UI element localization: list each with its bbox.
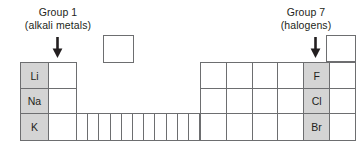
element-cell-empty (88, 114, 99, 141)
table-row: Br (201, 114, 356, 141)
element-cell-empty (144, 114, 155, 141)
element-cell-empty (133, 114, 144, 141)
table-row: K (21, 114, 77, 141)
element-cell-empty (227, 63, 253, 89)
element-cell-empty (253, 114, 279, 141)
transition-metals-grid (76, 113, 200, 141)
element-cell-empty (227, 89, 253, 114)
down-arrow-icon (310, 37, 321, 58)
element-cell-empty (49, 89, 77, 114)
element-cell-empty (227, 114, 253, 141)
element-cell-empty (49, 114, 77, 141)
element-cell-empty (111, 114, 122, 141)
element-cell-li: Li (21, 63, 49, 89)
s-block-grid: LiNaK (20, 62, 77, 141)
table-row: Na (21, 89, 77, 114)
hydrogen-cell (103, 35, 134, 63)
table-row (77, 114, 200, 141)
element-cell-empty (330, 114, 356, 141)
table-row: Cl (201, 89, 356, 114)
group-1-label-line1: Group 1 (10, 6, 106, 19)
element-cell-cl: Cl (304, 89, 330, 114)
element-cell-empty (278, 63, 304, 89)
periodic-table-diagram: Group 1 (alkali metals) Group 7 (halogen… (0, 0, 357, 143)
group-7-label-line1: Group 7 (258, 6, 354, 19)
group-1-label: Group 1 (alkali metals) (10, 6, 106, 31)
element-cell-empty (49, 63, 77, 89)
element-cell-empty (201, 63, 227, 89)
element-cell-empty (189, 114, 200, 141)
p-block-grid: FClBr (200, 62, 356, 141)
element-cell-k: K (21, 114, 49, 141)
helium-cell (326, 35, 356, 62)
group-1-label-line2: (alkali metals) (10, 19, 106, 32)
element-cell-empty (278, 114, 304, 141)
element-cell-empty (178, 114, 189, 141)
element-cell-empty (201, 89, 227, 114)
element-cell-empty (167, 114, 178, 141)
table-row: Li (21, 63, 77, 89)
element-cell-br: Br (304, 114, 330, 141)
element-cell-empty (330, 89, 356, 114)
element-cell-empty (122, 114, 133, 141)
element-cell-empty (99, 114, 110, 141)
element-cell-empty (278, 89, 304, 114)
element-cell-empty (253, 89, 279, 114)
element-cell-empty (77, 114, 88, 141)
down-arrow-icon (52, 37, 63, 58)
element-cell-na: Na (21, 89, 49, 114)
element-cell-f: F (304, 63, 330, 89)
group-7-label: Group 7 (halogens) (258, 6, 354, 31)
table-row: F (201, 63, 356, 89)
element-cell-empty (155, 114, 166, 141)
element-cell-empty (201, 114, 227, 141)
element-cell-empty (330, 63, 356, 89)
element-cell-empty (253, 63, 279, 89)
group-7-label-line2: (halogens) (258, 19, 354, 32)
